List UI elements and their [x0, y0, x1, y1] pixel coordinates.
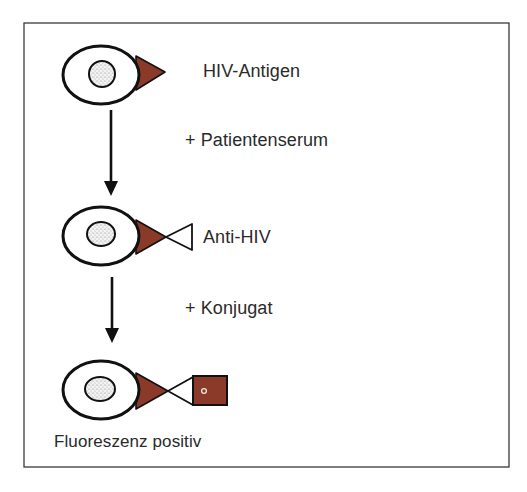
step-3-label: Fluoreszenz positiv	[54, 433, 201, 450]
nucleus-icon	[87, 222, 115, 246]
transition-1-label: + Patientenserum	[185, 131, 328, 149]
step-2-label: Anti-HIV	[203, 228, 271, 246]
nucleus-icon	[89, 61, 115, 87]
nucleus-icon	[85, 377, 115, 401]
fluorescent-conjugate-icon	[193, 376, 227, 405]
transition-2-label: + Konjugat	[185, 299, 273, 317]
step-1-label: HIV-Antigen	[203, 62, 300, 80]
